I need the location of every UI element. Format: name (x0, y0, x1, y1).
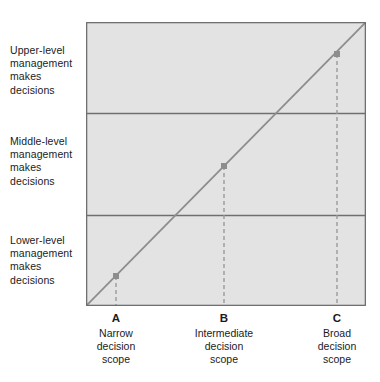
x-tick-caption-c: Broaddecisionscope (289, 327, 380, 367)
y-band-label-lower: Lower-levelmanagementmakesdecisions (10, 234, 84, 287)
data-point-marker-b (221, 163, 227, 169)
x-tick-b: B Intermediatedecisionscope (176, 311, 272, 367)
decision-scope-chart: Upper-levelmanagementmakesdecisions Midd… (0, 0, 380, 382)
data-point-marker-c (334, 51, 340, 57)
data-point-marker-a (113, 273, 119, 279)
x-tick-c: C Broaddecisionscope (289, 311, 380, 367)
plot-svg (86, 22, 366, 306)
x-tick-caption-a: Narrowdecisionscope (68, 327, 164, 367)
x-tick-letter-a: A (68, 311, 164, 326)
y-band-label-upper: Upper-levelmanagementmakesdecisions (10, 44, 84, 97)
x-tick-letter-b: B (176, 311, 272, 326)
y-band-label-middle: Middle-levelmanagementmakesdecisions (10, 135, 84, 188)
x-tick-letter-c: C (289, 311, 380, 326)
x-tick-caption-b: Intermediatedecisionscope (176, 327, 272, 367)
x-tick-a: A Narrowdecisionscope (68, 311, 164, 367)
plot-area (86, 22, 366, 306)
